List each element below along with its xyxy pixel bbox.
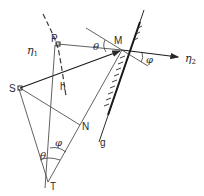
label-eta1: η1 (27, 44, 38, 58)
line-TP (45, 45, 55, 188)
label-phi-T: φ (55, 137, 62, 148)
surface-g-thick (108, 22, 140, 115)
line-PM (58, 44, 122, 50)
label-eta2: η2 (185, 52, 196, 66)
line-TM (48, 50, 122, 182)
label-g: g (100, 137, 106, 148)
angle-arc-phi-T (50, 148, 66, 153)
label-theta-M: θ (93, 41, 99, 52)
label-phi-M: φ (146, 54, 153, 65)
label-theta-T: θ (40, 150, 46, 161)
angle-arc-phi-M (141, 53, 143, 62)
label-S: S (9, 83, 16, 94)
label-M: M (114, 35, 122, 46)
label-P: P (51, 33, 58, 44)
refraction-geometry-diagram: P M S N T h g η1 η2 θ φ θ φ (0, 0, 204, 196)
label-N: N (82, 121, 89, 132)
label-T: T (50, 181, 56, 192)
label-h: h (60, 81, 66, 92)
angle-arc-theta-M (104, 40, 106, 52)
surface-hatching (104, 26, 142, 106)
